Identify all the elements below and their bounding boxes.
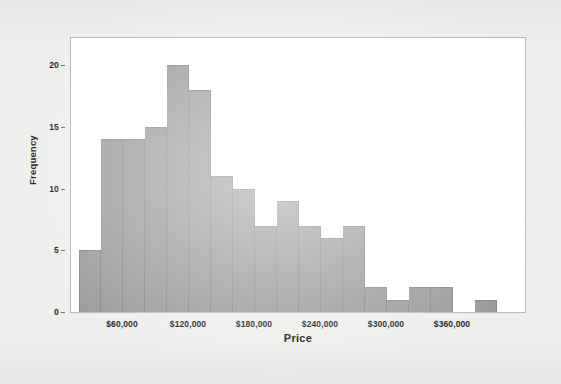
y-axis-title: Frequency	[27, 135, 38, 185]
histogram-figure: Frequency 05101520 $60,000$120,000$180,0…	[0, 0, 561, 384]
y-tick-label: 0	[54, 307, 59, 317]
histogram-bar	[189, 90, 211, 312]
histogram-bar	[277, 201, 299, 312]
x-tick-label: $240,000	[302, 319, 338, 329]
y-tick-mark	[61, 312, 65, 313]
y-tick-label: 10	[49, 184, 59, 194]
histogram-bar	[365, 287, 387, 312]
x-tick-label: $360,000	[434, 319, 470, 329]
y-tick-mark	[61, 189, 65, 190]
y-tick-label: 5	[54, 245, 59, 255]
histogram-bar	[255, 226, 277, 312]
histogram-bar	[233, 189, 255, 312]
histogram-bar	[145, 127, 167, 312]
x-tick-label: $300,000	[368, 319, 404, 329]
histogram-bar	[387, 300, 409, 312]
x-tick-label: $60,000	[106, 319, 137, 329]
x-tick-label: $120,000	[170, 319, 206, 329]
histogram-bar	[211, 176, 233, 312]
histogram-bar	[431, 287, 453, 312]
y-tick-mark	[61, 65, 65, 66]
histogram-bar	[299, 226, 321, 312]
histogram-bar	[409, 287, 431, 312]
y-tick-label: 15	[49, 122, 59, 132]
histogram-bar	[101, 139, 123, 312]
histogram-bar	[475, 300, 497, 312]
y-tick-mark	[61, 250, 65, 251]
histogram-bar	[167, 65, 189, 312]
x-tick-label: $180,000	[236, 319, 272, 329]
y-tick-mark	[61, 127, 65, 128]
y-axis: Frequency 05101520	[0, 0, 70, 384]
bar-series	[79, 38, 497, 312]
histogram-bar	[343, 226, 365, 312]
plot-area	[71, 38, 525, 312]
histogram-bar	[321, 238, 343, 312]
y-tick-label: 20	[49, 60, 59, 70]
plot-frame	[70, 37, 526, 313]
histogram-bar	[79, 250, 101, 312]
x-axis-title: Price	[70, 332, 526, 344]
histogram-bar	[123, 139, 145, 312]
